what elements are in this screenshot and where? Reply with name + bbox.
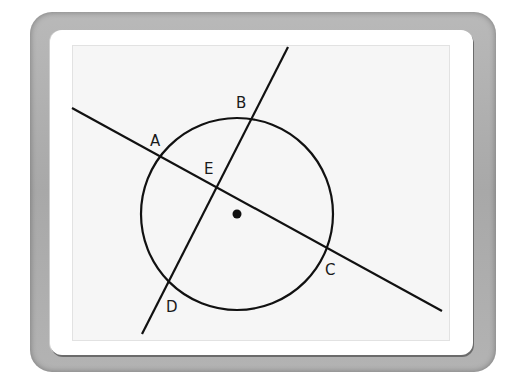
label-A: A	[150, 132, 161, 150]
line-BD	[142, 47, 288, 334]
center-dot	[233, 210, 242, 219]
line-AC	[72, 108, 442, 311]
geometry-diagram: A B C D E	[0, 0, 520, 391]
label-C: C	[325, 261, 335, 279]
label-E: E	[204, 160, 213, 178]
label-B: B	[236, 94, 246, 112]
label-D: D	[166, 298, 178, 316]
